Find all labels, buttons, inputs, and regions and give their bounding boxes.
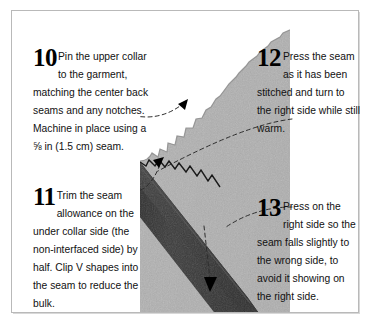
step-12: 12 Press the seam as it has been stitche… [257, 46, 361, 136]
step-10: 10 Pin the upper collar to the garment, … [33, 46, 151, 154]
step-11-number: 11 [33, 186, 56, 207]
step-13-number: 13 [257, 197, 281, 218]
step-11: 11 Trim the seam allowance on the under … [33, 185, 149, 311]
step-13: 13 Press on the right side so the seam f… [257, 196, 361, 304]
step-12-number: 12 [257, 47, 281, 68]
notch-arrow-upper [178, 99, 188, 110]
step-10-number: 10 [33, 47, 57, 68]
illustration-page: 10 Pin the upper collar to the garment, … [0, 0, 372, 326]
